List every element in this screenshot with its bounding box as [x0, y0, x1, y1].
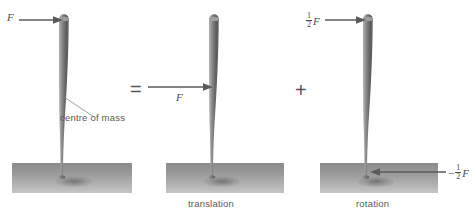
baseball-bat — [358, 10, 390, 186]
force-variable-top: F — [312, 16, 320, 27]
plus-operator: + — [295, 80, 307, 100]
centre-of-mass-label: centre of mass — [60, 112, 125, 123]
force-decomposition-figure: F centre of mass = — [0, 0, 476, 219]
force-fraction-bottom: 12 — [455, 164, 461, 182]
fraction-denominator: 2 — [455, 172, 461, 181]
force-label-rotation-bottom: −12F — [448, 165, 469, 183]
fraction-numerator: 1 — [455, 164, 461, 172]
panel-applied-force: F centre of mass — [0, 0, 150, 219]
caption-rotation: rotation — [356, 198, 389, 209]
fraction-numerator: 1 — [306, 12, 312, 20]
force-sign-bottom: − — [448, 168, 455, 179]
force-label-applied: F — [7, 12, 14, 23]
force-arrow-rotation-top — [325, 13, 367, 27]
force-label-rotation-top: 12F — [305, 13, 320, 31]
force-label-translation: F — [176, 92, 183, 103]
caption-translation: translation — [188, 198, 234, 209]
panel-translation: F translation — [150, 0, 290, 219]
fraction-denominator: 2 — [306, 20, 312, 29]
force-fraction-top: 12 — [306, 12, 312, 30]
force-arrow-rotation-bottom — [370, 165, 446, 179]
baseball-bat — [204, 10, 236, 186]
force-variable-bottom: F — [461, 168, 469, 179]
equals-operator: = — [130, 79, 142, 99]
panel-rotation: 12F −12F rotation — [320, 0, 476, 219]
force-arrow-applied — [19, 13, 64, 27]
